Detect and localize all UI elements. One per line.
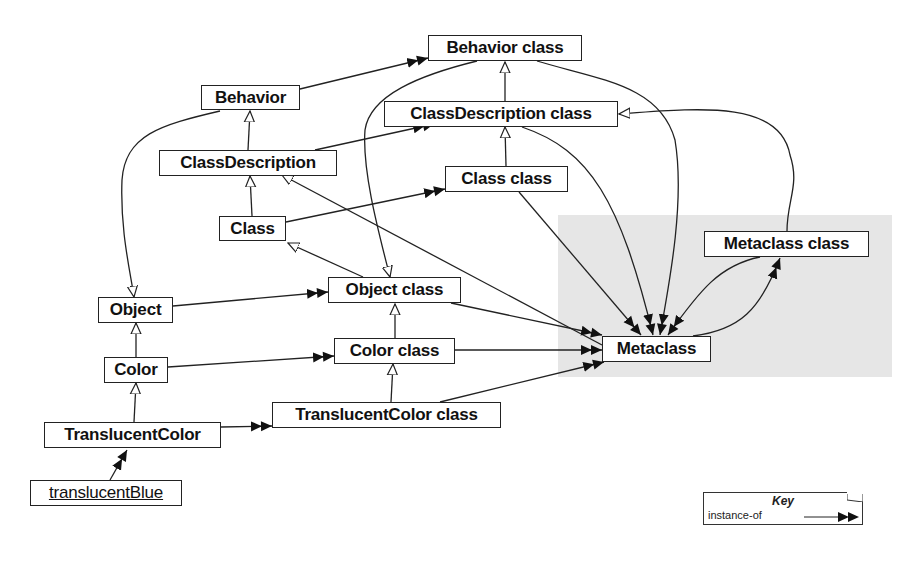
instance-of-edge	[110, 450, 127, 480]
node-color-class: Color class	[334, 338, 455, 364]
instance-of-edge	[522, 127, 653, 335]
inherits-edge	[619, 110, 794, 231]
node-metaclass: Metaclass	[602, 336, 711, 362]
inherits-edge	[505, 127, 506, 166]
inherits-edge	[391, 364, 393, 402]
node-behavior: Behavior	[201, 85, 300, 110]
instance-of-edge	[286, 189, 445, 222]
node-classdescription-class: ClassDescription class	[384, 101, 618, 127]
legend-instance-of-label: instance-of	[708, 509, 762, 521]
node-translucentcolor: TranslucentColor	[44, 422, 221, 448]
inherits-edge	[288, 243, 363, 277]
inherits-edge	[134, 383, 136, 422]
instance-of-edge	[315, 124, 434, 150]
instance-of-edge	[173, 292, 328, 306]
inherits-edge	[250, 176, 252, 216]
inherits-edge	[282, 175, 602, 345]
node-class-class: Class class	[445, 166, 568, 192]
instance-of-edge	[168, 356, 334, 367]
instance-of-edge	[693, 258, 780, 336]
node-object: Object	[98, 297, 173, 323]
node-translucentcolor-class: TranslucentColor class	[272, 402, 501, 428]
legend-key: Key instance-of	[703, 492, 863, 525]
double-arrow-icon	[804, 511, 860, 523]
node-metaclass-class: Metaclass class	[704, 231, 869, 257]
instance-of-edge	[451, 303, 602, 335]
legend-title: Key	[704, 494, 862, 508]
node-class: Class	[219, 216, 286, 241]
instance-of-edge	[668, 257, 760, 335]
node-classdescription: ClassDescription	[159, 150, 337, 176]
node-object-class: Object class	[328, 277, 461, 303]
inherits-edge	[248, 111, 250, 150]
instance-of-edge	[221, 426, 272, 427]
node-behavior-class: Behavior class	[428, 35, 582, 61]
node-translucentblue-instance: translucentBlue	[30, 480, 182, 506]
instance-of-edge	[519, 192, 641, 335]
inherits-edge	[122, 111, 220, 297]
node-color: Color	[104, 357, 168, 383]
diagram-canvas: Behavior class Behavior ClassDescription…	[0, 0, 917, 561]
instance-of-edge	[440, 362, 604, 402]
